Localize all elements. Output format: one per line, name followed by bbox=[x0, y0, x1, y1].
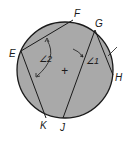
point-label-e: E bbox=[9, 48, 16, 59]
point-label-g: G bbox=[95, 18, 103, 29]
point-label-j: J bbox=[59, 122, 66, 133]
point-label-h: H bbox=[115, 72, 123, 83]
point-label-f: F bbox=[74, 8, 81, 19]
angle-2-label: ∠2 bbox=[39, 54, 52, 64]
circle-diagram: + ∠2 ∠1 F G E H K J bbox=[0, 0, 129, 142]
center-mark: + bbox=[61, 64, 68, 78]
point-label-k: K bbox=[40, 120, 48, 131]
angle-1-label: ∠1 bbox=[86, 56, 99, 66]
